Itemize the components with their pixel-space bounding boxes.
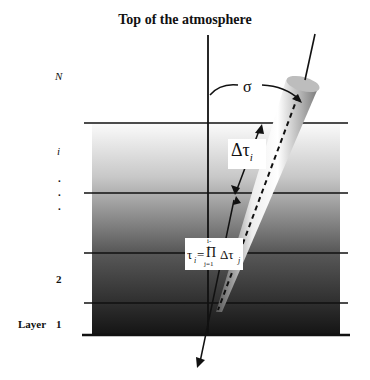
sigma-arc <box>210 85 238 95</box>
product-lower: j=1 <box>204 261 213 268</box>
sigma-label: σ <box>243 78 252 96</box>
arrow-bottom-icon <box>196 357 205 368</box>
delta-tau-j-subscript: j <box>238 257 240 265</box>
layer-label-n: N <box>55 70 62 82</box>
ellipsis-dot: . <box>58 172 61 184</box>
ellipsis-dot: . <box>58 186 61 198</box>
layer-label-1: 1 <box>56 318 62 330</box>
tau-subscript: i <box>194 257 196 265</box>
layer-label-2: 2 <box>56 273 62 285</box>
delta-tau-j: Δτ <box>220 248 234 261</box>
layer-label-prefix: Layer <box>18 318 46 330</box>
product-symbol: Π <box>206 246 216 260</box>
delta-tau-symbol: Δτ <box>231 140 250 160</box>
delta-tau-label: Δτi <box>231 140 253 163</box>
layer-label-i: i <box>57 145 60 157</box>
diagram-title: Top of the atmosphere <box>0 12 370 28</box>
delta-tau-subscript: i <box>250 151 253 163</box>
ellipsis-dot: . <box>58 200 61 212</box>
tau-symbol: τ <box>187 248 192 261</box>
